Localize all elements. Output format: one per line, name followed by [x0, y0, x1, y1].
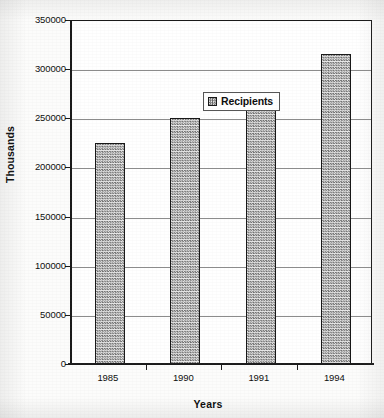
y-axis-tick-label: 0	[61, 358, 66, 369]
bar-1990	[170, 118, 200, 364]
y-axis-tick-label: 150000	[35, 211, 66, 222]
legend-label-recipients: Recipients	[221, 96, 273, 107]
y-axis-tick-label: 300000	[35, 63, 66, 74]
x-axis-tick-label-1985: 1985	[78, 372, 138, 383]
x-axis-tick-label-1994: 1994	[304, 372, 364, 383]
y-axis-tick-label: 250000	[35, 112, 66, 123]
y-axis-tick-label: 200000	[35, 161, 66, 172]
y-axis-tick-label: 50000	[40, 309, 66, 320]
y-axis-tick-label: 100000	[35, 260, 66, 271]
bar-1985	[95, 143, 125, 364]
chart-legend: Recipients	[203, 92, 280, 111]
y-axis-title: Thousands	[4, 165, 16, 183]
y-axis-tick-label: 350000	[35, 14, 66, 25]
x-axis-tick	[297, 365, 298, 370]
legend-swatch-recipients-icon	[208, 97, 217, 106]
bar-1994	[321, 54, 351, 364]
x-axis-tick	[221, 365, 222, 370]
plot-area: Recipients	[70, 20, 372, 364]
x-axis-title: Years	[0, 398, 384, 410]
bar-1991	[246, 94, 276, 364]
x-axis-tick-label-1990: 1990	[153, 372, 213, 383]
x-axis-tick-label-1991: 1991	[229, 372, 289, 383]
x-axis-tick	[146, 365, 147, 370]
bar-chart-figure: Recipients 05000010000015000020000025000…	[0, 0, 384, 418]
